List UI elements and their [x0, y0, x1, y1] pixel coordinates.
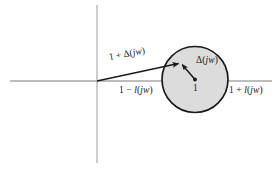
label-delta-suffix: ) [215, 55, 218, 65]
label-one-plus-ell-prefix: 1 + [229, 85, 244, 95]
disc-center-dot [193, 78, 197, 82]
label-one-minus-ell: 1 − l(jw) [119, 86, 153, 96]
label-disc-center-one: 1 [193, 84, 198, 94]
label-one-plus-ell-close: ) [259, 85, 262, 95]
label-one-plus-ell: 1 + l(jw) [229, 86, 263, 96]
uncertainty-disc-figure: 1 + Δ(jw) Δ(jw) 1 − l(jw) 1 + l(jw) 1 [0, 0, 279, 169]
label-one-minus-ell-prefix: 1 − [119, 85, 134, 95]
label-delta: Δ(jw) [196, 56, 218, 66]
label-one-minus-ell-close: ) [149, 85, 152, 95]
label-delta-arg: jw [205, 55, 214, 65]
